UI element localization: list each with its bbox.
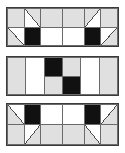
- quilt-cell: [63, 58, 80, 76]
- quilt-cell: [8, 9, 24, 27]
- quilt-cell: [101, 28, 117, 46]
- quilt-cell: [45, 58, 62, 76]
- quilt-cell: [8, 105, 24, 124]
- quilt-cell: [8, 58, 25, 94]
- quilt-cell: [100, 58, 117, 94]
- quilt-cell: [101, 125, 117, 144]
- quilt-cell: [85, 125, 101, 144]
- quilt-cell: [41, 125, 62, 144]
- quilt-cell: [85, 9, 101, 27]
- quilt-panel-middle: [6, 56, 119, 96]
- quilt-cell: [63, 105, 84, 124]
- quilt-panel-top: [6, 7, 119, 47]
- quilt-cell: [41, 28, 62, 46]
- quilt-cell: [8, 28, 24, 46]
- quilt-cell: [63, 77, 80, 95]
- quilt-cell: [45, 77, 62, 95]
- quilt-cell: [63, 125, 84, 144]
- quilt-cell: [8, 125, 24, 144]
- quilt-cell: [81, 58, 98, 94]
- quilt-cell: [101, 105, 117, 124]
- quilt-block-figure: [0, 0, 125, 153]
- quilt-cell: [85, 28, 101, 46]
- quilt-cell: [63, 28, 84, 46]
- quilt-cell: [41, 105, 62, 124]
- quilt-cell: [25, 125, 41, 144]
- quilt-cell: [26, 58, 43, 94]
- quilt-cell: [25, 28, 41, 46]
- quilt-cell: [25, 105, 41, 124]
- quilt-cell: [41, 9, 62, 27]
- quilt-panel-bottom: [6, 103, 119, 146]
- quilt-cell: [63, 9, 84, 27]
- quilt-cell: [85, 105, 101, 124]
- quilt-cell: [25, 9, 41, 27]
- quilt-cell: [101, 9, 117, 27]
